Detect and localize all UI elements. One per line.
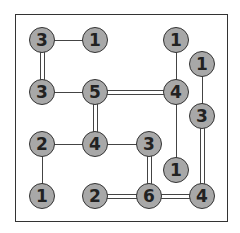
island-value: 3 [196,106,208,126]
island[interactable]: 4 [163,79,189,105]
island[interactable]: 5 [82,79,108,105]
island[interactable]: 2 [29,131,55,157]
island[interactable]: 3 [189,103,215,129]
island-value: 6 [143,186,155,206]
island[interactable]: 3 [136,131,162,157]
island-value: 5 [89,82,101,102]
island[interactable]: 2 [82,183,108,209]
island-value: 1 [196,54,208,74]
island-value: 1 [89,30,101,50]
island[interactable]: 3 [29,27,55,53]
hashi-board: 3 1 1 1 3 5 4 3 2 4 3 1 1 2 6 4 [0,0,240,233]
island-value: 3 [36,30,48,50]
island[interactable]: 4 [82,131,108,157]
island[interactable]: 1 [82,27,108,53]
island-value: 1 [170,160,182,180]
island-value: 4 [89,134,101,154]
island-value: 1 [36,186,48,206]
island-value: 2 [89,186,101,206]
island[interactable]: 1 [29,183,55,209]
island-value: 3 [36,82,48,102]
island[interactable]: 1 [163,157,189,183]
island-value: 3 [143,134,155,154]
island[interactable]: 1 [163,27,189,53]
island-value: 4 [170,82,182,102]
island[interactable]: 1 [189,51,215,77]
island[interactable]: 4 [189,183,215,209]
island[interactable]: 3 [29,79,55,105]
island-value: 1 [170,30,182,50]
island[interactable]: 6 [136,183,162,209]
island-value: 2 [36,134,48,154]
island-value: 4 [196,186,208,206]
